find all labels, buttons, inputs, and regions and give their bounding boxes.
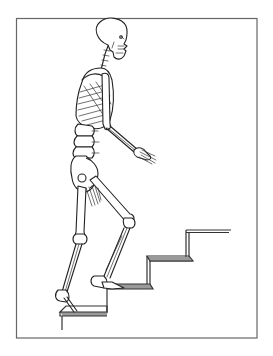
back-knee (73, 234, 87, 244)
picture-frame (17, 19, 258, 339)
front-knee (123, 218, 135, 228)
upper-arm-bone (102, 73, 111, 129)
skeleton-stairs-illustration: Skeleton walking up stairs (0, 0, 273, 356)
back-heel (56, 290, 69, 302)
illustration-canvas (0, 0, 273, 356)
